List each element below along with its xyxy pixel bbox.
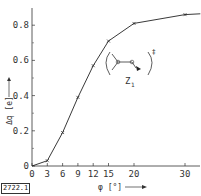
arrow-icon — [142, 185, 147, 189]
x-tick-label: 30 — [180, 169, 191, 179]
y-tick-label: 0.4 — [13, 91, 29, 101]
figure-id: 2722.1 — [1, 183, 30, 194]
data-curve — [32, 14, 200, 166]
x-tick-label: 20 — [129, 169, 140, 179]
x-tick-label: 3 — [45, 169, 50, 179]
svg-text:Δq [e]: Δq [e] — [5, 96, 14, 125]
x-tick-label: 0 — [29, 169, 34, 179]
y-tick-label: 0.6 — [13, 55, 29, 65]
data-point-marker — [107, 40, 110, 43]
wedge-bond-icon — [136, 66, 141, 71]
left-bracket — [106, 52, 110, 75]
x-tick-label: 9 — [75, 169, 80, 179]
x-tick-label: 6 — [60, 169, 65, 179]
y-tick-label: 0.2 — [13, 126, 29, 136]
molecule-inset: ‡ Z 1 — [106, 48, 156, 88]
y-tick-label: 0 — [24, 161, 29, 171]
arrow-icon — [7, 77, 11, 81]
y-tick-label: 0.8 — [13, 20, 29, 30]
y-axis-title: Δq [e] — [5, 77, 14, 125]
svg-text:1: 1 — [131, 81, 135, 88]
x-tick-label: 12 — [88, 169, 99, 179]
x-ticks: 036912152030 — [29, 163, 190, 179]
x-axis-title: φ [°] — [98, 183, 147, 192]
svg-text:‡: ‡ — [152, 48, 156, 56]
x-tick-label: 15 — [103, 169, 114, 179]
chart: 00.20.40.60.8 036912152030 Δq [e] φ [°] … — [0, 0, 201, 196]
svg-text:φ [°]: φ [°] — [98, 183, 122, 192]
